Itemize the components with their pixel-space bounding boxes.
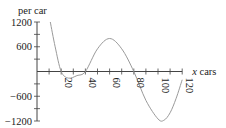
y-axis-label: per car <box>18 5 47 16</box>
x-tick-label: 20 <box>63 78 74 89</box>
y-tick-label: 1200 <box>11 17 32 28</box>
x-tick-label: 120 <box>184 78 195 94</box>
x-tick-label: 40 <box>87 78 98 89</box>
y-tick-label: −1200 <box>5 116 32 127</box>
y-tick-label: 600 <box>16 41 32 52</box>
x-axis-label: x cars <box>191 66 216 77</box>
x-tick-label: 100 <box>160 78 171 94</box>
y-tick-label: −600 <box>10 91 32 102</box>
chart: 1200600−600−120020406080100120per carx c… <box>0 0 226 128</box>
x-tick-label: 60 <box>111 78 122 89</box>
x-tick-label: 80 <box>135 78 146 89</box>
axes <box>34 22 182 121</box>
